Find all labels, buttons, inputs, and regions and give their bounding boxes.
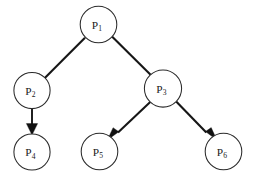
node-p3-label-subscript: 3 xyxy=(163,88,167,97)
node-p4[interactable]: P4 xyxy=(14,134,50,170)
node-p6-label-subscript: 6 xyxy=(223,151,227,160)
edge-p1-p3-line xyxy=(112,37,153,77)
edge-p3-p6 xyxy=(176,101,217,139)
node-p4-label-subscript: 4 xyxy=(32,152,36,161)
edge-p1-p2-line xyxy=(44,38,85,79)
diagram-canvas: P1 P2 P3 P4 P5 xyxy=(0,0,253,177)
edge-p3-p5 xyxy=(107,102,150,140)
node-p1-label-subscript: 1 xyxy=(98,24,102,33)
node-p5-label-subscript: 5 xyxy=(99,151,103,160)
node-p5[interactable]: P5 xyxy=(81,133,118,170)
process-tree-diagram: P1 P2 P3 P4 P5 xyxy=(0,0,253,177)
edge-p2-p4-arrowhead xyxy=(26,124,37,135)
node-p6[interactable]: P6 xyxy=(205,133,242,170)
edge-p3-p6-line xyxy=(176,101,206,132)
edge-p3-p5-line xyxy=(118,102,151,133)
node-p3[interactable]: P3 xyxy=(144,70,181,107)
node-p1[interactable]: P1 xyxy=(80,6,117,43)
node-p2[interactable]: P2 xyxy=(14,72,50,108)
node-p2-label-subscript: 2 xyxy=(32,90,36,99)
edge-p2-p4 xyxy=(26,109,37,135)
